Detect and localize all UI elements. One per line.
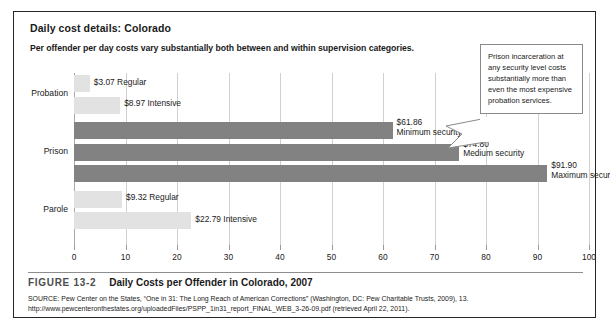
x-tick-label: 80	[481, 252, 490, 262]
x-tick-label: 60	[378, 252, 387, 262]
x-tick-label: 50	[327, 252, 336, 262]
figure-source: SOURCE: Pew Center on the States, “One i…	[28, 294, 580, 314]
bar-row	[74, 122, 589, 139]
x-tick-label: 90	[533, 252, 542, 262]
category-label-probation: Probation	[31, 88, 68, 98]
figure-number: FIGURE 13-2	[28, 277, 96, 288]
x-tick	[383, 245, 384, 250]
bar-prison-maximum	[74, 165, 547, 182]
bar-value-label: $8.97 Intensive	[124, 99, 181, 109]
bar-parole-intensive	[74, 212, 191, 229]
figure-title: Daily Costs per Offender in Colorado, 20…	[109, 277, 312, 288]
bar-value-label: $9.32 Regular	[126, 193, 179, 203]
bar-prison-medium	[74, 144, 459, 161]
bar-row	[74, 165, 589, 182]
x-tick-label: 20	[172, 252, 181, 262]
x-tick	[435, 245, 436, 250]
figure-caption: FIGURE 13-2Daily Costs per Offender in C…	[28, 277, 313, 288]
x-tick	[280, 245, 281, 250]
x-tick	[332, 245, 333, 250]
box-title: Daily cost details: Colorado	[30, 22, 171, 34]
x-tick	[486, 245, 487, 250]
x-tick-label: 10	[121, 252, 130, 262]
x-tick	[538, 245, 539, 250]
x-tick-label: 100	[582, 252, 596, 262]
bar-row	[74, 212, 589, 229]
bar-value-label: $22.79 Intensive	[195, 215, 256, 225]
figure-frame: Daily cost details: Colorado Per offende…	[13, 11, 596, 318]
bar-probation-intensive	[74, 97, 120, 114]
category-label-prison: Prison	[44, 146, 68, 156]
bar-value-label: $3.07 Regular	[94, 78, 147, 88]
x-tick	[126, 245, 127, 250]
x-tick	[177, 245, 178, 250]
x-tick	[74, 245, 75, 250]
x-tick-label: 30	[224, 252, 233, 262]
callout-pointer-icon	[446, 117, 492, 149]
category-label-parole: Parole	[43, 204, 68, 214]
x-tick-label: 0	[72, 252, 77, 262]
bar-prison-minimum	[74, 122, 393, 139]
bar-parole-regular	[74, 191, 122, 208]
chart-x-axis: 0102030405060708090100	[74, 245, 589, 267]
x-tick-label: 70	[430, 252, 439, 262]
bar-probation-regular	[74, 75, 90, 92]
gridline	[589, 73, 590, 245]
callout-box: Prison incarceration at any security lev…	[480, 44, 583, 114]
x-tick	[229, 245, 230, 250]
box-subtitle: Per offender per day costs vary substant…	[30, 43, 482, 53]
source-line-1: SOURCE: Pew Center on the States, “One i…	[28, 294, 580, 304]
bar-value-label: $91.90Maximum security	[551, 161, 610, 181]
x-tick-label: 40	[275, 252, 284, 262]
source-line-2: http://www.pewcenteronthestates.org/uplo…	[28, 304, 580, 314]
x-tick	[589, 245, 590, 250]
caption-divider	[28, 272, 583, 273]
